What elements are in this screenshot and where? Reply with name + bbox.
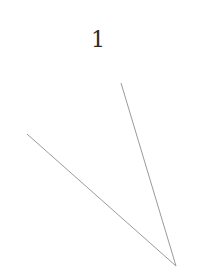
ray-line-a <box>121 83 176 266</box>
angle-diagram <box>0 0 200 275</box>
ray-line-b <box>27 134 176 266</box>
